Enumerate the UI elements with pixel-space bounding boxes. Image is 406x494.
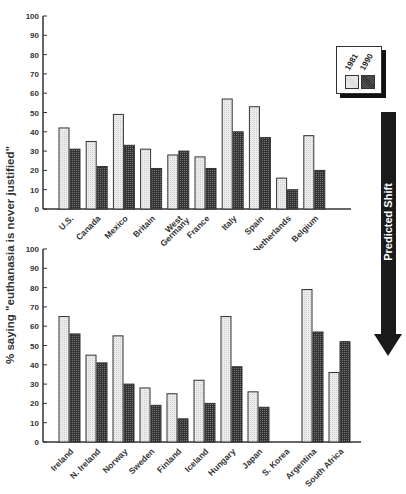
bar-1990 xyxy=(97,363,107,442)
y-tick-label: 100 xyxy=(26,245,40,254)
bar-1981 xyxy=(221,317,231,442)
x-tick-label: Finland xyxy=(155,446,183,474)
bar-1990 xyxy=(232,367,242,442)
legend-label-1990: 1990 xyxy=(358,52,375,72)
predicted-shift-label: Predicted Shift xyxy=(382,183,394,261)
bar-1990 xyxy=(340,342,350,442)
bar-1981 xyxy=(59,317,69,442)
legend-swatch-1990 xyxy=(361,75,375,89)
bar-1981 xyxy=(86,355,96,442)
bar-1981 xyxy=(194,380,204,442)
x-tick-label: Hungary xyxy=(206,446,238,478)
y-tick-label: 80 xyxy=(30,284,39,293)
bar-1990 xyxy=(178,419,188,442)
predicted-shift-arrow: Predicted Shift xyxy=(374,112,402,358)
y-tick-label: 0 xyxy=(35,438,40,447)
bar-1990 xyxy=(205,403,215,442)
y-tick-label: 90 xyxy=(30,264,39,273)
y-tick-label: 40 xyxy=(30,361,39,370)
bar-1990 xyxy=(313,332,323,442)
y-tick-label: 50 xyxy=(30,342,39,351)
legend-label-1981: 1981 xyxy=(343,52,360,72)
x-tick-label: Norway xyxy=(101,446,130,475)
bar-1990 xyxy=(259,407,269,442)
y-tick-label: 70 xyxy=(30,303,39,312)
bar-1981 xyxy=(302,290,312,442)
bar-1981 xyxy=(248,392,258,442)
bar-1981 xyxy=(167,394,177,442)
bar-1990 xyxy=(70,334,80,442)
y-tick-label: 60 xyxy=(30,322,39,331)
legend-swatch-1981 xyxy=(345,75,359,89)
bar-1981 xyxy=(113,336,123,442)
x-tick-label: Japan xyxy=(240,446,264,470)
legend: 1981 1990 xyxy=(336,46,382,94)
y-tick-label: 30 xyxy=(30,380,39,389)
y-tick-label: 10 xyxy=(30,419,39,428)
arrow-down-icon xyxy=(374,334,402,356)
bar-1990 xyxy=(124,384,134,442)
bar-1981 xyxy=(140,388,150,442)
x-tick-label: Sweden xyxy=(127,446,157,476)
bar-1981 xyxy=(329,373,339,442)
y-tick-label: 20 xyxy=(30,399,39,408)
bar-1990 xyxy=(151,405,161,442)
